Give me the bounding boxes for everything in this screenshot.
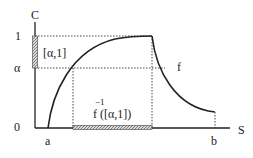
preimage-label: f ([α,1]): [93, 107, 131, 121]
function-curve-falling: [152, 36, 215, 112]
curve-label: f: [177, 60, 181, 74]
y-tick-one: 1: [15, 29, 21, 43]
alpha-interval-bar: [33, 36, 38, 68]
preimage-interval-bar: [73, 126, 152, 130]
x-axis-label: S: [238, 123, 245, 137]
x-tick-b: b: [211, 134, 217, 148]
y-tick-alpha: α: [14, 61, 21, 75]
interval-label: [α,1]: [43, 46, 66, 60]
y-axis-label: C: [31, 8, 39, 22]
x-tick-a: a: [45, 134, 51, 148]
membership-function-diagram: C S 1 α 0 a b [α,1] f −1 f ([α,1]): [0, 0, 253, 158]
preimage-superscript: −1: [95, 97, 105, 107]
y-tick-zero: 0: [14, 120, 20, 134]
